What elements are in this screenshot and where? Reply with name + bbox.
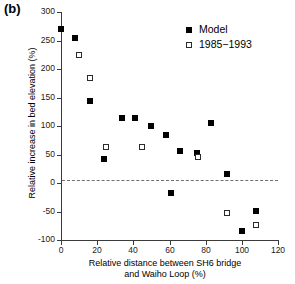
data-point bbox=[87, 98, 93, 104]
data-point bbox=[132, 115, 138, 121]
x-tick-label: 100 bbox=[227, 246, 257, 255]
data-point bbox=[163, 132, 169, 138]
data-point bbox=[72, 35, 78, 41]
x-tick-label: 20 bbox=[82, 246, 112, 255]
x-tick-label: 0 bbox=[46, 246, 76, 255]
x-tick-label: 60 bbox=[155, 246, 185, 255]
x-axis-title-line2: and Waiho Loop (%) bbox=[40, 269, 290, 280]
data-point bbox=[224, 171, 230, 177]
data-point bbox=[239, 228, 245, 234]
data-point bbox=[139, 144, 145, 150]
x-tick-label: 120 bbox=[263, 246, 293, 255]
x-axis-title-line1: Relative distance between SH6 bridge bbox=[89, 258, 242, 268]
legend: Model1985−1993 bbox=[186, 22, 252, 52]
data-point bbox=[87, 75, 93, 81]
y-axis-title: Relative increase in bed elevation (%) bbox=[27, 13, 37, 233]
data-point bbox=[177, 148, 183, 154]
legend-label: 1985−1993 bbox=[199, 37, 252, 52]
data-point bbox=[253, 208, 259, 214]
data-point bbox=[58, 26, 64, 32]
data-point bbox=[168, 190, 174, 196]
legend-swatch-icon bbox=[186, 27, 192, 33]
data-point bbox=[103, 144, 109, 150]
data-point bbox=[148, 123, 154, 129]
data-point bbox=[101, 156, 107, 162]
data-point bbox=[208, 120, 214, 126]
legend-row: 1985−1993 bbox=[186, 37, 252, 52]
data-point bbox=[195, 154, 201, 160]
data-point bbox=[253, 222, 259, 228]
data-point bbox=[119, 115, 125, 121]
legend-row: Model bbox=[186, 22, 252, 37]
x-tick-label: 80 bbox=[191, 246, 221, 255]
x-axis-title: Relative distance between SH6 bridge and… bbox=[40, 258, 290, 280]
y-tick-label: -100 bbox=[0, 235, 55, 244]
data-point bbox=[76, 52, 82, 58]
x-tick-label: 40 bbox=[118, 246, 148, 255]
figure-panel-b: (b) -100-50050100150200250300 0204060801… bbox=[0, 0, 295, 284]
data-point bbox=[224, 210, 230, 216]
legend-swatch-icon bbox=[186, 42, 192, 48]
legend-label: Model bbox=[199, 22, 228, 37]
